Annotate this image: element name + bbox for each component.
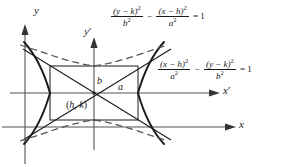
num2-text: (x − h) — [158, 6, 183, 16]
semi-minor-axis-label: b — [97, 76, 102, 86]
equation-vertical-hyperbola: (y − k)2 b2 − (x − h)2 a2 = 1 — [110, 5, 206, 28]
y-prime-axis-label: y′ — [84, 26, 91, 37]
center-label-h: h — [69, 99, 74, 110]
denominator-b-squared: b2 — [111, 17, 143, 28]
num2-text-2: (y − k) — [206, 59, 231, 69]
denominator-a-squared: a2 — [156, 17, 188, 28]
center-label-k: k — [79, 99, 83, 110]
equals-one: = 1 — [192, 12, 206, 21]
x-prime-axis-label: x′ — [223, 85, 230, 96]
center-coordinate-label: (h, k) — [66, 100, 87, 110]
fraction-y-minus-k-over-b: (y − k)2 b2 — [111, 5, 143, 28]
hyperbola-figure: y x y′ x′ b a (h, k) (y − k)2 b2 − (x − … — [0, 0, 301, 167]
x-axis-label: x — [239, 119, 244, 130]
y-prime-mark: ′ — [89, 25, 91, 37]
equals-one-2: = 1 — [239, 65, 253, 74]
num2-exp-2: 2 — [230, 57, 233, 64]
x-prime-axis — [10, 89, 220, 96]
den1-exp: 2 — [128, 16, 131, 23]
num1-exp: 2 — [138, 4, 141, 11]
denominator-a-squared-2: a2 — [158, 70, 190, 81]
y-axis-label: y — [34, 5, 39, 16]
minus-operator-2: − — [194, 65, 201, 74]
x-prime-mark: ′ — [228, 84, 230, 96]
num1-text: (y − k) — [113, 6, 138, 16]
center-point — [92, 91, 95, 94]
den2-exp-2: 2 — [220, 69, 223, 76]
fraction-x-minus-h-over-a: (x − h)2 a2 — [156, 5, 188, 28]
den2-exp: 2 — [173, 16, 176, 23]
fraction-x-minus-h-over-a-2: (x − h)2 a2 — [158, 58, 190, 81]
fraction-y-minus-k-over-b-2: (y − k)2 b2 — [204, 58, 236, 81]
semi-major-axis-label: a — [118, 82, 123, 92]
minus-operator: − — [146, 12, 153, 21]
num1-exp-2: 2 — [185, 57, 188, 64]
equation-horizontal-hyperbola: (x − h)2 a2 − (y − k)2 b2 = 1 — [157, 58, 253, 81]
num1-text-2: (x − h) — [160, 59, 185, 69]
num2-exp: 2 — [183, 4, 186, 11]
denominator-b-squared-2: b2 — [204, 70, 236, 81]
den1-exp-2: 2 — [175, 69, 178, 76]
